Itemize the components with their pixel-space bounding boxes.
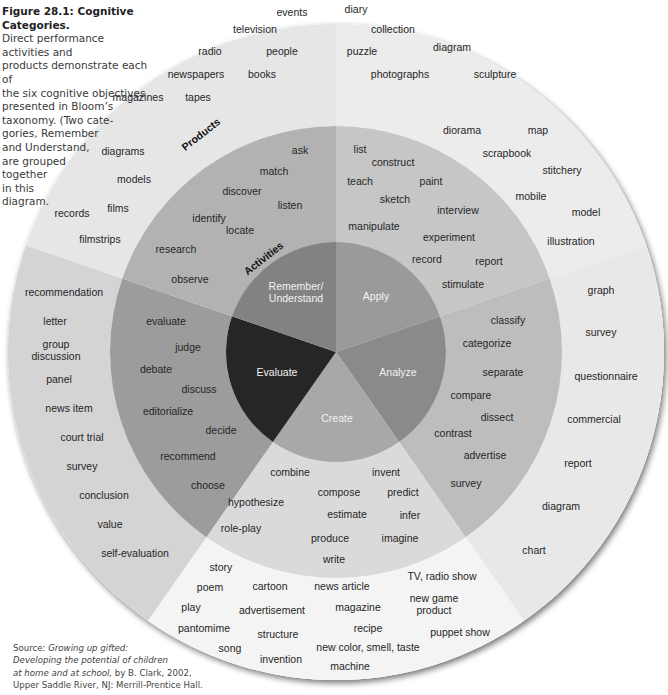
product-word: sculpture xyxy=(474,68,517,80)
product-word: groupdiscussion xyxy=(31,338,80,362)
product-word: chart xyxy=(522,544,545,556)
activity-word: hypothesize xyxy=(228,496,284,508)
activity-word: research xyxy=(156,243,197,255)
product-word: TV, radio show xyxy=(407,570,476,582)
product-word: diagram xyxy=(542,500,580,512)
product-word: survey xyxy=(67,460,98,472)
activity-word: match xyxy=(260,165,289,177)
source-title: Developing the potential of children xyxy=(13,655,168,665)
product-word: value xyxy=(97,518,122,530)
caption-title: Figure 28.1: Cognitive Categories. xyxy=(2,5,152,32)
product-word: panel xyxy=(46,373,72,385)
activity-word: evaluate xyxy=(146,315,186,327)
activity-word: record xyxy=(412,253,442,265)
category-create: Create xyxy=(321,412,353,424)
product-word: magazines xyxy=(113,91,164,103)
product-word: letter xyxy=(43,315,66,327)
product-word: models xyxy=(117,173,151,185)
caption-line: products demonstrate each of xyxy=(2,59,152,86)
product-word: survey xyxy=(586,326,617,338)
activity-word: invent xyxy=(372,466,400,478)
activity-word: estimate xyxy=(327,508,367,520)
product-word: diagrams xyxy=(101,145,144,157)
product-word: questionnaire xyxy=(574,370,637,382)
activity-word: experiment xyxy=(423,231,475,243)
product-word: filmstrips xyxy=(79,233,120,245)
product-word: records xyxy=(54,207,89,219)
product-word: conclusion xyxy=(79,489,129,501)
product-word: magazine xyxy=(335,601,381,613)
activity-word: locate xyxy=(226,224,254,236)
activity-word: predict xyxy=(387,486,419,498)
activity-word: debate xyxy=(140,363,172,375)
activity-word: recommend xyxy=(160,450,215,462)
activity-word: ask xyxy=(292,144,308,156)
product-word: mobile xyxy=(516,190,547,202)
product-word: map xyxy=(528,124,548,136)
product-word: illustration xyxy=(547,235,594,247)
product-word: invention xyxy=(260,653,302,665)
activity-word: discuss xyxy=(181,383,216,395)
activity-word: choose xyxy=(191,479,225,491)
source-title: at home and at school, xyxy=(13,668,112,678)
activity-word: write xyxy=(323,553,345,565)
product-word: photographs xyxy=(371,68,429,80)
product-word: commercial xyxy=(567,413,621,425)
product-word: new gameproduct xyxy=(410,592,458,616)
activity-word: paint xyxy=(420,175,443,187)
category-analyze: Analyze xyxy=(379,366,416,378)
category-apply: Apply xyxy=(363,290,389,302)
activity-word: teach xyxy=(347,175,373,187)
product-word: structure xyxy=(258,628,299,640)
product-word: song xyxy=(219,642,242,654)
activity-word: survey xyxy=(451,477,482,489)
product-word: diagram xyxy=(433,41,471,53)
product-word: play xyxy=(181,601,200,613)
product-word: diary xyxy=(345,3,368,15)
product-word: recipe xyxy=(354,622,383,634)
product-word: collection xyxy=(371,23,415,35)
activity-word: compose xyxy=(318,486,361,498)
product-word: books xyxy=(248,68,276,80)
product-word: pantomime xyxy=(178,622,230,634)
activity-word: list xyxy=(354,143,367,155)
caption-line: Direct performance activities and xyxy=(2,32,152,59)
product-word: puzzle xyxy=(347,45,377,57)
product-word: graph xyxy=(588,284,615,296)
activity-word: compare xyxy=(451,389,492,401)
activity-word: manipulate xyxy=(348,220,399,232)
source-publisher: Upper Saddle River, NJ: Merrill-Prentice… xyxy=(13,679,213,691)
activity-word: categorize xyxy=(463,337,511,349)
product-word: advertisement xyxy=(239,604,305,616)
product-word: report xyxy=(564,457,591,469)
caption-line: taxonomy. (Two cate- xyxy=(2,114,152,128)
product-word: events xyxy=(277,6,308,18)
activity-word: classify xyxy=(491,314,525,326)
activity-word: decide xyxy=(206,424,237,436)
product-word: television xyxy=(233,23,277,35)
activity-word: report xyxy=(475,255,502,267)
caption-line: gories, Remember xyxy=(2,127,152,141)
category-evaluate: Evaluate xyxy=(257,366,298,378)
activity-word: interview xyxy=(437,204,478,216)
product-word: stitchery xyxy=(542,164,581,176)
activity-word: sketch xyxy=(380,193,410,205)
product-word: machine xyxy=(330,660,370,672)
activity-word: separate xyxy=(483,366,524,378)
source-author: by B. Clark, 2002, xyxy=(112,668,192,678)
product-word: newspapers xyxy=(168,68,225,80)
product-word: news item xyxy=(45,402,92,414)
source-prefix: Source: xyxy=(13,643,48,653)
source-citation: Source: Growing up gifted: Developing th… xyxy=(13,642,213,691)
activity-word: identify xyxy=(192,212,225,224)
activity-word: dissect xyxy=(481,411,514,423)
activity-word: contrast xyxy=(434,427,471,439)
activity-word: construct xyxy=(372,156,415,168)
activity-word: imagine xyxy=(382,532,419,544)
product-word: news article xyxy=(314,580,369,592)
product-word: self-evaluation xyxy=(101,547,169,559)
product-word: poem xyxy=(197,581,223,593)
product-word: scrapbook xyxy=(483,147,531,159)
product-word: diorama xyxy=(443,124,481,136)
product-word: recommendation xyxy=(25,286,103,298)
